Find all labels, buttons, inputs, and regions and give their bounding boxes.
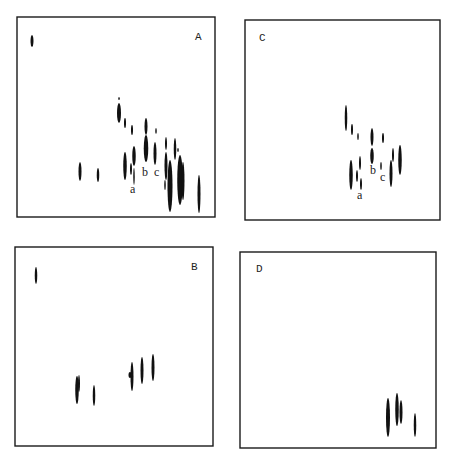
spot <box>174 138 177 160</box>
spot <box>392 148 394 162</box>
spot <box>129 372 132 378</box>
spot <box>132 146 136 166</box>
spot <box>182 162 185 200</box>
spot <box>123 152 127 180</box>
spot <box>414 413 417 437</box>
spot-label-b: b <box>142 165 148 179</box>
spot <box>345 105 348 131</box>
spot <box>31 35 34 47</box>
spot <box>78 375 80 392</box>
spot <box>395 393 399 426</box>
panel-label: B <box>191 261 198 273</box>
panel-frame <box>17 17 215 217</box>
spot <box>79 162 82 181</box>
spot <box>131 125 133 135</box>
spot <box>380 162 382 170</box>
spot <box>371 128 374 146</box>
spot <box>155 128 157 134</box>
panel-label: D <box>256 263 263 275</box>
spot <box>118 97 120 100</box>
spot <box>390 160 393 187</box>
panel-frame <box>15 247 213 446</box>
spot <box>177 148 179 152</box>
spot <box>351 124 353 135</box>
four-panel-figure: Aabc Cabc B D <box>0 0 455 462</box>
spot <box>117 103 121 123</box>
panel-b: B <box>15 247 213 446</box>
spot <box>141 357 144 384</box>
spot <box>154 142 157 165</box>
spot <box>370 148 374 164</box>
spot <box>97 168 100 182</box>
spot <box>93 385 96 406</box>
spot <box>398 145 402 175</box>
spot <box>400 400 403 424</box>
spot <box>349 160 353 190</box>
spot <box>145 118 148 135</box>
spot <box>357 133 359 140</box>
spot <box>356 170 358 182</box>
spot <box>35 267 38 284</box>
spot-label-b: b <box>370 163 376 177</box>
panel-c: Cabc <box>245 20 440 220</box>
panel-d: D <box>240 252 436 448</box>
spot <box>359 156 361 170</box>
spot <box>144 135 149 162</box>
panel-label: A <box>195 31 202 43</box>
spot <box>130 163 132 175</box>
panel-frame <box>240 252 436 448</box>
panel-frame <box>245 20 440 220</box>
spot <box>382 133 384 143</box>
spot <box>124 118 126 128</box>
spot-label-c: c <box>380 170 385 184</box>
spot-label-a: a <box>357 188 363 202</box>
spot-label-c: c <box>154 165 159 179</box>
spot <box>198 175 201 213</box>
spot-label-a: a <box>130 182 136 196</box>
spot <box>168 160 173 212</box>
spot <box>165 152 168 180</box>
panel-label: C <box>259 32 266 44</box>
panel-a: Aabc <box>17 17 215 217</box>
spot <box>152 354 155 381</box>
spot <box>165 137 167 150</box>
spot <box>386 398 390 437</box>
spot <box>164 180 166 190</box>
